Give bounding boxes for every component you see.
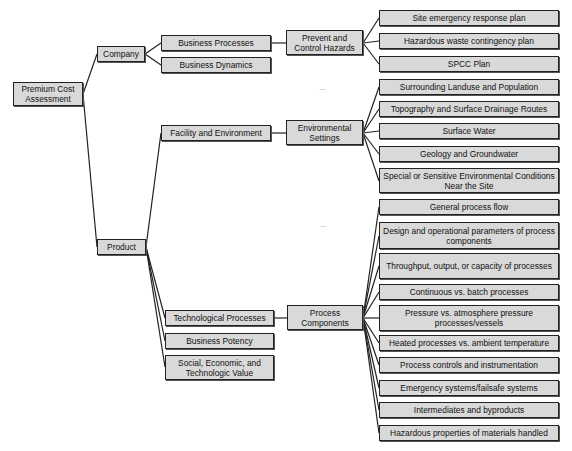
- ellipsis-marker-1: ...: [319, 83, 326, 92]
- node-business-potency: Business Potency: [165, 333, 274, 349]
- leaf-topography-drainage: Topography and Surface Drainage Routes: [379, 101, 559, 117]
- leaf-site-emergency-response-plan: Site emergency response plan: [379, 10, 559, 26]
- ellipsis-marker-2: ...: [320, 220, 327, 229]
- leaf-emergency-systems: Emergency systems/failsafe systems: [379, 380, 559, 396]
- node-social-economic-technologic-value: Social, Economic, and Technologic Value: [165, 355, 274, 380]
- node-prevent-control-hazards: Prevent and Control Hazards: [286, 30, 363, 55]
- node-product: Product: [97, 239, 146, 255]
- leaf-heated-processes: Heated processes vs. ambient temperature: [379, 335, 559, 351]
- node-business-processes: Business Processes: [161, 35, 271, 51]
- node-technological-processes: Technological Processes: [165, 310, 274, 326]
- leaf-intermediates-byproducts: Intermediates and byproducts: [379, 402, 559, 418]
- node-premium-cost-assessment: Premium Cost Assessment: [13, 82, 83, 106]
- node-process-components: Process Components: [287, 305, 363, 330]
- leaf-spcc-plan: SPCC Plan: [379, 56, 559, 72]
- leaf-process-controls: Process controls and instrumentation: [379, 357, 559, 373]
- leaf-design-operational-parameters: Design and operational parameters of pro…: [379, 222, 559, 249]
- leaf-general-process-flow: General process flow: [379, 199, 559, 215]
- node-company: Company: [97, 46, 145, 62]
- leaf-geology-groundwater: Geology and Groundwater: [379, 146, 559, 162]
- leaf-pressure-vessels: Pressure vs. atmosphere pressure process…: [379, 305, 559, 331]
- leaf-hazardous-properties: Hazardous properties of materials handle…: [379, 425, 559, 441]
- leaf-continuous-batch: Continuous vs. batch processes: [379, 284, 559, 300]
- leaf-surrounding-landuse: Surrounding Landuse and Population: [379, 79, 559, 95]
- leaf-special-sensitive-conditions: Special or Sensitive Environmental Condi…: [379, 168, 559, 193]
- node-facility-environment: Facility and Environment: [161, 125, 271, 141]
- leaf-throughput-capacity: Throughput, output, or capacity of proce…: [379, 253, 559, 279]
- node-business-dynamics: Business Dynamics: [161, 57, 271, 73]
- node-environmental-settings: Environmental Settings: [286, 120, 363, 145]
- leaf-surface-water: Surface Water: [379, 123, 559, 139]
- leaf-hazardous-waste-contingency-plan: Hazardous waste contingency plan: [379, 33, 559, 49]
